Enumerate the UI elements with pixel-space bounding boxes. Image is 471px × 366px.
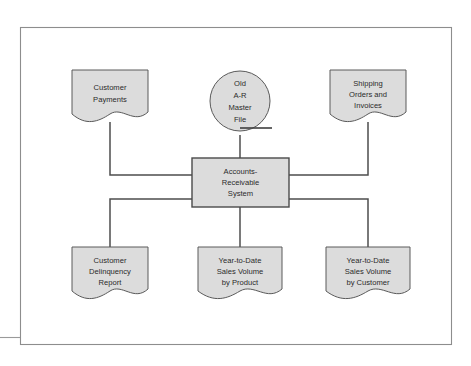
node-shipping-orders-and-invoices[interactable]: Shipping Orders and Invoices <box>330 70 406 122</box>
node-label-line: Accounts- <box>224 167 258 176</box>
node-label-line: System <box>228 189 253 198</box>
connector-shipping-orders <box>289 122 368 175</box>
node-accounts-receivable-system[interactable]: Accounts- Receivable System <box>192 158 289 207</box>
node-label-line: Old <box>234 79 246 88</box>
node-label-line: Shipping <box>353 79 383 88</box>
node-year-to-date-sales-volume-by-product[interactable]: Year-to-Date Sales Volume by Product <box>198 247 282 299</box>
node-label-line: Report <box>99 278 123 287</box>
node-year-to-date-sales-volume-by-customer[interactable]: Year-to-Date Sales Volume by Customer <box>326 247 410 299</box>
node-label-line: Invoices <box>354 101 382 110</box>
node-label-line: Delinquency <box>89 267 131 276</box>
node-label-line: Year-to-Date <box>219 256 262 265</box>
node-label-line: Customer <box>94 83 127 92</box>
node-old-ar-master-file[interactable]: Old A-R Master File <box>210 71 272 131</box>
node-label-line: File <box>234 115 246 124</box>
node-label-line: Payments <box>93 95 127 104</box>
node-label-line: Year-to-Date <box>347 256 390 265</box>
node-label-line: A-R <box>233 91 247 100</box>
connector-sales-volume-by-customer <box>289 199 368 247</box>
node-customer-delinquency-report[interactable]: Customer Delinquency Report <box>72 247 148 299</box>
diagram-canvas: Customer Payments Old A-R Master File Sh… <box>0 0 471 366</box>
node-label-line: Customer <box>94 256 127 265</box>
connector-delinquency-report <box>110 199 192 247</box>
node-customer-payments[interactable]: Customer Payments <box>72 70 148 122</box>
node-label-line: by Product <box>222 278 259 287</box>
node-label-line: by Customer <box>346 278 390 287</box>
connector-customer-payments <box>110 122 192 175</box>
node-label-line: Receivable <box>222 178 260 187</box>
node-label-line: Orders and <box>349 90 387 99</box>
node-label-line: Sales Volume <box>345 267 391 276</box>
node-label-line: Master <box>228 103 252 112</box>
node-label-line: Sales Volume <box>217 267 263 276</box>
